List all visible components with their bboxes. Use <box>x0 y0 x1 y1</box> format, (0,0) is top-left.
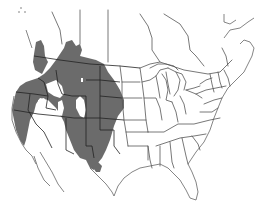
range-map <box>0 0 269 213</box>
north-america-map <box>0 0 269 213</box>
great-lakes <box>150 64 212 94</box>
coastline <box>12 8 254 200</box>
